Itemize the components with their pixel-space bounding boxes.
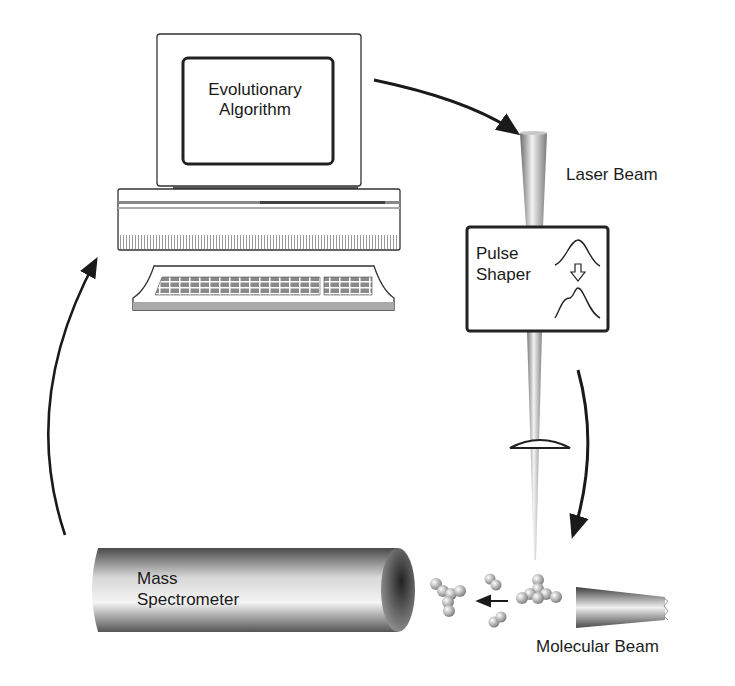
laser-beam-label: Laser Beam [566,165,658,185]
molecule-intact [516,574,562,604]
arrow-computer-to-laser [374,80,517,133]
screen-label-line2: Algorithm [185,100,325,120]
computer-base [118,189,400,250]
laser-beam-upper [520,133,547,227]
diagram-canvas [0,0,735,686]
mass-line2: Spectrometer [137,589,239,610]
mass-line1: Mass [137,568,239,589]
arrow-spectrometer-to-computer [48,260,96,535]
screen-label-line1: Evolutionary [185,80,325,100]
focusing-lens-icon [510,440,570,448]
pulse-shaper-line1: Pulse [476,243,531,264]
arrow-shaper-to-molecules [573,370,588,535]
pulse-shaper-label: Pulse Shaper [476,243,531,285]
pulse-shaper-line2: Shaper [476,264,531,285]
evolutionary-algorithm-label: Evolutionary Algorithm [185,80,325,120]
molecular-beam-nozzle [576,587,665,628]
molecular-beam-label: Molecular Beam [536,637,659,657]
keyboard [133,266,394,310]
mass-spectrometer-label: Mass Spectrometer [137,568,239,610]
